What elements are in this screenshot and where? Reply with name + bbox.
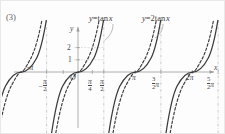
x-tick-label-two-pi: 2π bbox=[186, 74, 194, 82]
x-tick-quarter-pi-num: π bbox=[88, 78, 92, 86]
x-tick-label-neg-half-pi: −π2 bbox=[38, 76, 47, 93]
y-gridline-group bbox=[74, 48, 104, 60]
x-tick-label-half-pi: π2 bbox=[100, 76, 104, 93]
curve-label-tanx-var: x bbox=[109, 13, 113, 23]
plot-canvas bbox=[0, 0, 225, 134]
curve-label-2tanx: y=2tan x bbox=[142, 14, 170, 23]
x-tick-half-pi-frac: π2 bbox=[100, 78, 104, 94]
y-tick-label-2: 2 bbox=[67, 44, 71, 52]
x-tick-half-pi-num: π bbox=[100, 78, 104, 86]
x-tick-label-neg-pi: -π bbox=[27, 64, 33, 72]
x-tick-neg-half-pi-num: π bbox=[43, 78, 47, 86]
curve-label-tanx: y=tan x bbox=[89, 14, 112, 23]
curve-label-tanx-fn: tan bbox=[98, 13, 108, 23]
leader-line-tanx bbox=[105, 24, 114, 41]
y-axis bbox=[76, 27, 79, 128]
tangent-graph-figure: (3) y=tan x y=2tan x y x O 2 1 -π −π2 π4… bbox=[0, 0, 225, 134]
x-tick-neg-half-pi-frac: π2 bbox=[43, 78, 47, 94]
x-tick-half-pi-den: 2 bbox=[100, 85, 104, 93]
x-tick-neg-half-pi-den: 2 bbox=[43, 85, 47, 93]
x-tick-label-five-half-pi: 52π bbox=[207, 74, 214, 91]
curve-label-2tanx-var: x bbox=[166, 13, 170, 23]
x-tick-three-half-pi-suffix: π bbox=[155, 80, 159, 89]
x-tick-quarter-pi-den: 4 bbox=[88, 85, 92, 93]
x-tick-label-quarter-pi: π4 bbox=[88, 76, 92, 93]
x-tick-five-half-pi-suffix: π bbox=[210, 80, 214, 89]
x-tick-label-three-half-pi: 32π bbox=[152, 74, 159, 91]
x-axis bbox=[14, 70, 214, 73]
y-tick-label-1: 1 bbox=[68, 56, 72, 64]
y-axis-label: y bbox=[70, 25, 73, 33]
x-tick-quarter-pi-frac: π4 bbox=[88, 78, 92, 94]
x-axis-label: x bbox=[214, 64, 217, 72]
origin-label: O bbox=[70, 74, 76, 82]
x-tick-label-pi: π bbox=[132, 74, 136, 82]
curve-label-2tanx-fn: tan bbox=[155, 13, 165, 23]
item-number: (3) bbox=[6, 13, 16, 22]
